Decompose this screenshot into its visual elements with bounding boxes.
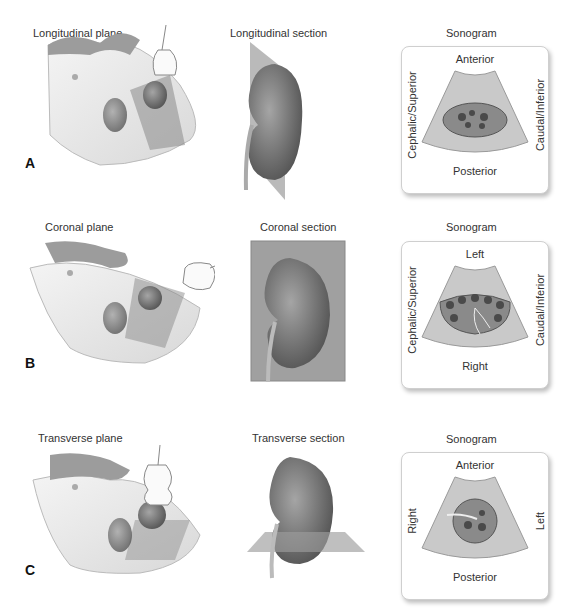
sonogram-title-c: Sonogram [446,433,497,445]
coronal-section-kidney-illustration [250,240,347,385]
sonogram-card-a: Anterior Posterior Cephalic/Superior Cau… [401,46,549,194]
sonogram-right-label-b: Caudal/Inferior [534,260,546,360]
sonogram-top-label-b: Left [402,248,548,260]
coronal-plane-body-illustration [25,238,215,368]
longitudinal-section-kidney-illustration [240,40,310,202]
sonogram-right-label-a: Caudal/Inferior [534,65,546,165]
sonogram-top-label-c: Anterior [402,459,548,471]
coronal-plane-label: Coronal plane [45,221,114,233]
transverse-section-kidney-illustration [245,452,365,582]
sonogram-card-b: Left Right Cephalic/Superior Caudal/Infe… [401,241,549,389]
transverse-section-label: Transverse section [252,432,345,444]
sonogram-bottom-label-b: Right [402,360,548,372]
sonogram-left-label-b: Cephalic/Superior [406,260,418,360]
longitudinal-plane-body-illustration [30,15,200,170]
sonogram-top-label-a: Anterior [402,53,548,65]
longitudinal-section-label: Longitudinal section [230,27,327,39]
sonogram-left-label-a: Cephalic/Superior [406,65,418,165]
sonogram-card-c: Anterior Posterior Right Left [401,452,549,600]
sonogram-bottom-label-a: Posterior [402,165,548,177]
sonogram-left-label-c: Right [406,471,418,571]
sonogram-bottom-label-c: Posterior [402,571,548,583]
sonogram-title-a: Sonogram [446,27,497,39]
transverse-plane-body-illustration [30,425,210,575]
coronal-section-label: Coronal section [260,221,336,233]
sonogram-title-b: Sonogram [446,221,497,233]
sonogram-right-label-c: Left [534,471,546,571]
